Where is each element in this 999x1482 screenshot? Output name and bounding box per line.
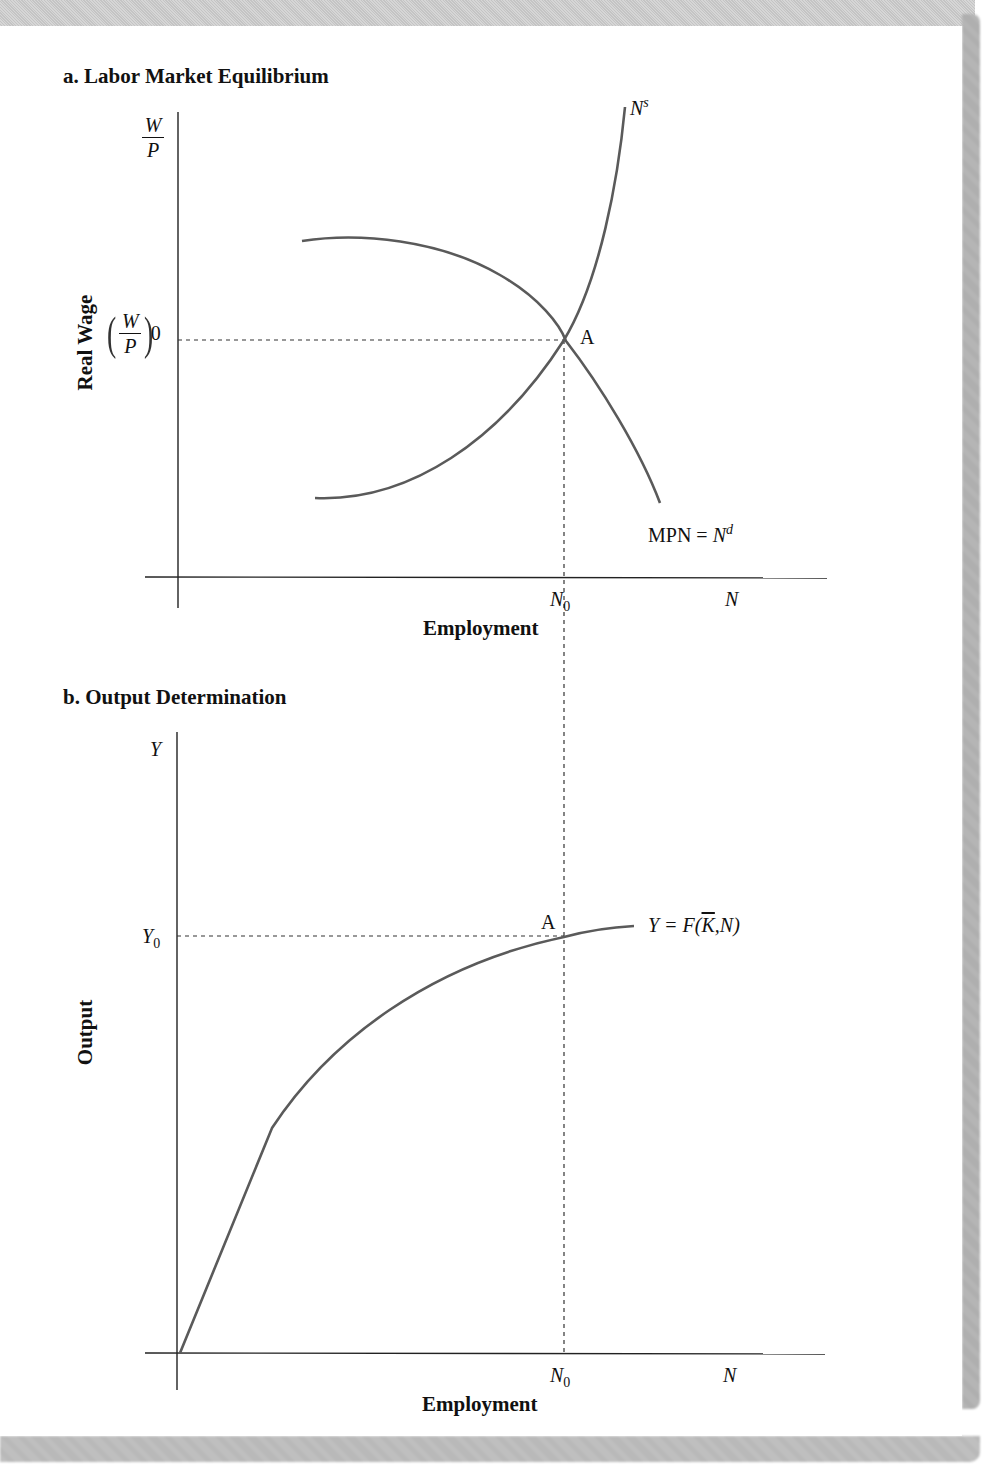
wage-tick-label: ( W P ) 0 — [104, 310, 161, 357]
panel-a-title: a. Labor Market Equilibrium — [63, 64, 329, 89]
labor-supply-curve — [315, 107, 625, 498]
panel-b-x-symbol: N — [723, 1364, 736, 1387]
panel-b-x-axis — [145, 1353, 825, 1354]
labor-supply-label: Ns — [630, 95, 649, 120]
tick-denominator: P — [124, 335, 136, 357]
panel-b-n0-tick: N0 — [550, 1364, 570, 1391]
production-function-label: Y = F(K,N) — [648, 914, 740, 937]
labor-demand-label: MPN = Nd — [648, 522, 733, 547]
fraction-bar — [119, 333, 141, 334]
panel-b-point-label: A — [541, 911, 555, 934]
labor-demand-curve — [302, 238, 660, 503]
panel-b-title: b. Output Determination — [63, 685, 286, 710]
y-symbol-numerator: W — [145, 114, 162, 136]
tick-numerator: W — [122, 310, 139, 332]
panel-a-y-symbol: W P — [142, 114, 164, 161]
fraction-bar — [142, 137, 164, 138]
right-paren: ) — [144, 311, 153, 357]
y-symbol-denominator: P — [147, 139, 159, 161]
panel-b-x-axis-title: Employment — [422, 1392, 538, 1417]
left-paren: ( — [107, 311, 116, 357]
panel-b-y-symbol: Y — [150, 738, 161, 761]
panel-b-y0-tick: Y0 — [142, 925, 160, 952]
panel-a-y-axis-title: Real Wage — [73, 295, 98, 391]
panel-a-x-axis-title: Employment — [423, 616, 539, 641]
production-function-curve — [180, 926, 634, 1353]
panel-a-point-label: A — [580, 326, 594, 349]
panel-a-x-symbol: N — [725, 588, 738, 611]
panel-a-n0-tick: N0 — [550, 588, 570, 615]
panel-a-x-axis — [145, 577, 827, 578]
panel-b-y-axis-title: Output — [73, 1000, 98, 1065]
